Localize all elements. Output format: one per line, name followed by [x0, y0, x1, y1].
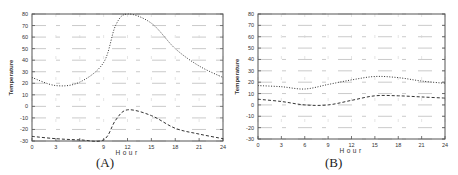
y-tick-label: 70	[248, 22, 254, 28]
y-tick-label: 80	[248, 11, 254, 17]
y-axis-label: Temperature	[234, 58, 240, 95]
x-tick-label: 21	[419, 142, 425, 148]
y-tick-label: 40	[22, 57, 28, 63]
x-tick-label: 24	[442, 142, 448, 148]
y-tick-label: 50	[248, 45, 254, 51]
y-tick-label: 30	[22, 69, 28, 75]
x-tick-label: 24	[220, 144, 226, 150]
x-axis-label: Hour	[115, 149, 139, 156]
caption-a: (A)	[96, 155, 114, 171]
y-tick-label: 60	[248, 34, 254, 40]
y-tick-label: 30	[248, 68, 254, 74]
line-chart-a: -30-20-100102030405060708003691215182124…	[0, 0, 229, 175]
y-tick-label: -30	[246, 136, 254, 142]
y-tick-label: 0	[25, 103, 28, 109]
y-axis-label: Temperature	[8, 59, 14, 96]
y-tick-label: -10	[20, 115, 28, 121]
y-tick-label: -20	[246, 125, 254, 131]
x-tick-label: 3	[280, 142, 283, 148]
y-tick-label: -30	[20, 138, 28, 144]
y-tick-label: 20	[22, 80, 28, 86]
x-tick-label: 15	[372, 142, 378, 148]
caption-b: (B)	[325, 155, 342, 171]
chart-panel-a: -30-20-100102030405060708003691215182124…	[0, 0, 229, 175]
x-tick-label: 9	[102, 144, 105, 150]
line-chart-b: -30-20-100102030405060708003691215182124…	[229, 0, 458, 175]
y-tick-label: 20	[248, 79, 254, 85]
y-tick-label: 80	[22, 11, 28, 17]
x-axis-label: Hour	[339, 147, 363, 154]
x-tick-label: 21	[196, 144, 202, 150]
series-upper-line	[32, 14, 223, 86]
x-tick-label: 18	[172, 144, 178, 150]
y-tick-label: 40	[248, 56, 254, 62]
series-lower-line	[32, 110, 223, 142]
chart-panel-b: -30-20-100102030405060708003691215182124…	[229, 0, 458, 175]
x-tick-label: 0	[256, 142, 259, 148]
y-tick-label: 60	[22, 34, 28, 40]
x-tick-label: 3	[54, 144, 57, 150]
x-tick-label: 6	[303, 142, 306, 148]
x-tick-label: 18	[395, 142, 401, 148]
y-tick-label: 10	[22, 92, 28, 98]
x-tick-label: 6	[78, 144, 81, 150]
y-tick-label: 70	[22, 23, 28, 29]
y-tick-label: 50	[22, 46, 28, 52]
y-tick-label: -10	[246, 113, 254, 119]
y-tick-label: 0	[251, 102, 254, 108]
x-tick-label: 0	[30, 144, 33, 150]
y-tick-label: 10	[248, 91, 254, 97]
x-tick-label: 15	[148, 144, 154, 150]
y-tick-label: -20	[20, 126, 28, 132]
x-tick-label: 9	[327, 142, 330, 148]
